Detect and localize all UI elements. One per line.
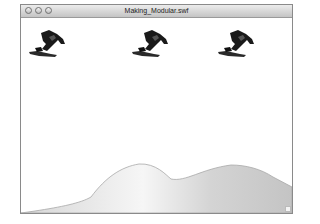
swf-stage[interactable] xyxy=(21,17,292,213)
resize-grip[interactable] xyxy=(285,206,291,212)
window-title: Making_Modular.swf xyxy=(21,5,292,17)
terrain-hills xyxy=(21,17,292,213)
flash-player-window: Making_Modular.swf xyxy=(20,4,293,214)
